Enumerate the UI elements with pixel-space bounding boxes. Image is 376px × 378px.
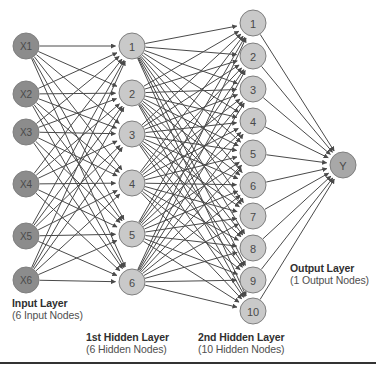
node-label: 2 bbox=[250, 51, 256, 63]
node-hidden1-1: 1 bbox=[119, 33, 145, 59]
node-input-5: X5 bbox=[13, 223, 39, 249]
connection-edge bbox=[266, 169, 327, 182]
bottom-divider bbox=[0, 362, 376, 364]
caption-output-layer-subtitle: (1 Output Nodes) bbox=[290, 274, 369, 286]
caption-input-layer: Input Layer (6 Input Nodes) bbox=[12, 297, 83, 321]
node-label: X6 bbox=[20, 275, 33, 286]
node-hidden2-7: 7 bbox=[240, 203, 266, 229]
node-label: 8 bbox=[250, 243, 256, 255]
node-label: 1 bbox=[129, 41, 135, 53]
node-input-4: X4 bbox=[13, 171, 39, 197]
node-hidden2-1: 1 bbox=[240, 10, 266, 36]
node-label: 5 bbox=[250, 148, 256, 160]
node-label: 4 bbox=[250, 116, 256, 128]
node-label: 6 bbox=[250, 180, 256, 192]
caption-hidden1-layer-subtitle: (6 Hidden Nodes) bbox=[86, 343, 169, 355]
connection-edge bbox=[262, 66, 333, 152]
node-hidden1-4: 4 bbox=[119, 170, 145, 196]
node-label: 3 bbox=[129, 129, 135, 141]
connection-edge bbox=[266, 155, 326, 163]
node-hidden2-3: 3 bbox=[240, 76, 266, 102]
node-label: 10 bbox=[247, 306, 259, 318]
neural-network-diagram: X1X2X3X4X5X612345612345678910Y Input Lay… bbox=[0, 0, 376, 378]
connection-edge bbox=[263, 176, 331, 239]
caption-hidden2-layer: 2nd Hidden Layer (10 Hidden Nodes) bbox=[198, 331, 285, 355]
node-hidden2-2: 2 bbox=[240, 43, 266, 69]
node-hidden2-5: 5 bbox=[240, 140, 266, 166]
caption-input-layer-subtitle: (6 Input Nodes) bbox=[12, 309, 83, 321]
node-label: 9 bbox=[250, 275, 256, 287]
connection-edge bbox=[138, 71, 245, 271]
node-label: 2 bbox=[129, 88, 135, 100]
network-graph: X1X2X3X4X5X612345612345678910Y bbox=[0, 0, 376, 378]
caption-hidden1-layer-title: 1st Hidden Layer bbox=[86, 331, 169, 343]
node-label: X4 bbox=[20, 179, 33, 190]
connection-edge bbox=[261, 178, 333, 269]
connection-edge bbox=[40, 93, 116, 94]
node-hidden2-8: 8 bbox=[240, 235, 266, 261]
node-label: 7 bbox=[250, 211, 256, 223]
connection-edge bbox=[145, 51, 238, 84]
node-input-3: X3 bbox=[13, 119, 39, 145]
connection-edge bbox=[145, 285, 237, 307]
node-hidden2-6: 6 bbox=[240, 172, 266, 198]
caption-hidden2-layer-title: 2nd Hidden Layer bbox=[198, 331, 285, 343]
node-hidden2-9: 9 bbox=[240, 267, 266, 293]
node-input-6: X6 bbox=[13, 267, 39, 293]
connection-edge bbox=[263, 98, 330, 155]
connection-edge bbox=[146, 280, 237, 282]
connection-edge bbox=[36, 145, 120, 226]
connection-edge bbox=[40, 132, 116, 133]
node-hidden1-3: 3 bbox=[119, 121, 145, 147]
node-hidden2-4: 4 bbox=[240, 108, 266, 134]
node-label: 6 bbox=[129, 277, 135, 289]
caption-hidden1-layer: 1st Hidden Layer (6 Hidden Nodes) bbox=[86, 331, 169, 355]
node-label: X3 bbox=[20, 127, 33, 138]
connection-edge bbox=[38, 190, 117, 230]
connection-edge bbox=[144, 224, 239, 276]
node-label: X5 bbox=[20, 231, 33, 242]
connection-edge bbox=[144, 99, 238, 146]
caption-output-layer: Output Layer (1 Output Nodes) bbox=[290, 262, 369, 286]
caption-hidden2-layer-subtitle: (10 Hidden Nodes) bbox=[198, 343, 285, 355]
connection-edge bbox=[143, 241, 239, 302]
node-input-2: X2 bbox=[13, 81, 39, 107]
node-output-1: Y bbox=[330, 152, 356, 178]
caption-output-layer-title: Output Layer bbox=[290, 262, 369, 274]
node-input-1: X1 bbox=[13, 33, 39, 59]
node-hidden1-6: 6 bbox=[119, 269, 145, 295]
connection-edge bbox=[38, 53, 117, 89]
node-label: 3 bbox=[250, 84, 256, 96]
node-label: 1 bbox=[250, 18, 256, 30]
node-label: 4 bbox=[129, 178, 135, 190]
caption-input-layer-title: Input Layer bbox=[12, 297, 83, 309]
connection-edge bbox=[265, 127, 328, 158]
connection-edge bbox=[260, 34, 334, 151]
edges-group bbox=[32, 26, 335, 307]
node-hidden1-5: 5 bbox=[119, 221, 145, 247]
connection-edge bbox=[40, 280, 116, 281]
connection-edge bbox=[144, 31, 239, 86]
node-label: 5 bbox=[129, 229, 135, 241]
node-label: X1 bbox=[20, 41, 33, 52]
connection-edge bbox=[40, 183, 116, 184]
node-hidden2-10: 10 bbox=[240, 298, 266, 324]
node-label: Y bbox=[339, 160, 347, 172]
node-label: X2 bbox=[20, 89, 33, 100]
node-hidden1-2: 2 bbox=[119, 80, 145, 106]
